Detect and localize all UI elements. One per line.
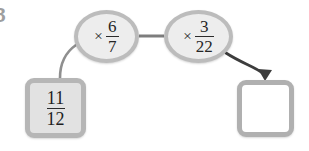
operation-1-content: × 6 7 [94,18,118,55]
operation-2-content: × 3 22 [183,18,213,55]
multiply-icon: × [94,29,102,45]
operation-oval-1: × 6 7 [74,10,139,63]
operation-2-fraction: 3 22 [195,18,214,55]
operation-2-numerator: 3 [199,18,210,35]
operation-1-numerator: 6 [107,18,118,35]
operation-1-fraction: 6 7 [106,18,119,55]
operation-oval-2: × 3 22 [164,10,233,63]
function-machine-diagram: 8 11 12 × 6 7 × [0,0,309,151]
operation-1-denominator: 7 [107,38,118,55]
input-numerator: 11 [47,89,64,107]
input-value-box: 11 12 [25,78,86,138]
input-fraction: 11 12 [47,89,65,128]
operation-2-denominator: 22 [195,38,214,55]
output-answer-box[interactable] [237,80,294,137]
multiply-icon: × [183,29,191,45]
connector-op2-to-output [226,53,264,74]
input-denominator: 12 [47,110,65,128]
connector-input-to-op1 [60,45,76,78]
